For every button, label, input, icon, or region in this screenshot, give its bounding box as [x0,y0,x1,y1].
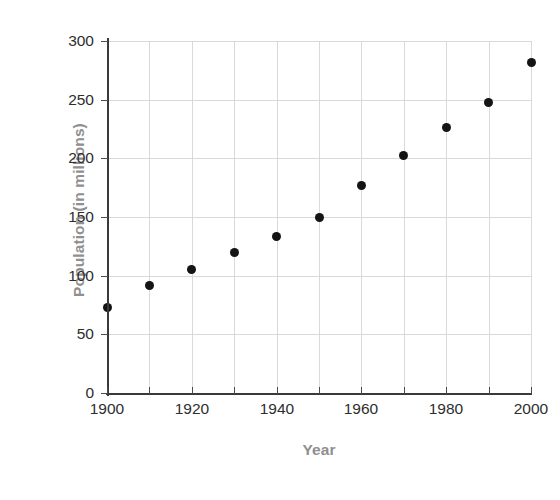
data-point [399,151,408,160]
data-point [315,213,324,222]
x-axis-tick [404,387,405,394]
data-point [145,281,154,290]
y-axis-tick [101,100,108,101]
scatter-chart: Population (in millions) Year 0501001502… [0,0,560,500]
gridline-vertical [404,41,405,393]
x-axis-tick [489,387,490,394]
y-axis-tick [101,276,108,277]
x-axis-tick [277,387,278,394]
data-point [230,248,239,257]
gridline-vertical [446,41,447,393]
x-axis-tick-label: 1980 [416,400,476,418]
y-axis-tick-label: 100 [44,267,94,285]
x-axis-tick [192,387,193,394]
y-axis-tick-label: 300 [44,32,94,50]
y-axis-tick-label: 150 [44,208,94,226]
x-axis-tick-label: 1960 [331,400,391,418]
x-axis-tick [446,387,447,394]
x-axis-tick [361,387,362,394]
gridline-vertical [531,41,532,393]
data-point [442,123,451,132]
gridline-vertical [149,41,150,393]
data-point [272,232,281,241]
x-axis-tick-label: 1920 [162,400,222,418]
x-axis-tick [149,387,150,394]
x-axis-tick-label: 1900 [77,400,137,418]
y-axis-tick [101,41,108,42]
data-point [187,265,196,274]
x-axis-tick [107,387,108,394]
gridline-vertical [277,41,278,393]
y-axis-tick-label: 50 [44,325,94,343]
y-axis-tick-label: 200 [44,149,94,167]
gridline-vertical [361,41,362,393]
y-axis-tick [101,334,108,335]
gridline-vertical [192,41,193,393]
x-axis-tick-label: 2000 [501,400,560,418]
data-point [484,98,493,107]
data-point [527,58,536,67]
x-axis-tick [531,387,532,394]
y-axis-tick-label: 250 [44,91,94,109]
x-axis-title: Year [107,441,531,459]
x-axis-tick [319,387,320,394]
gridline-vertical [489,41,490,393]
gridline-vertical [234,41,235,393]
x-axis-tick-label: 1940 [247,400,307,418]
x-axis-tick [234,387,235,394]
data-point [357,181,366,190]
y-axis-tick [101,217,108,218]
y-axis-tick [101,158,108,159]
plot-area [107,41,531,393]
